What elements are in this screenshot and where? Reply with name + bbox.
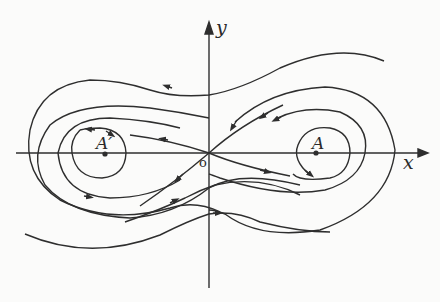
trajectory-lower-1 xyxy=(125,182,300,222)
trajectory-lower-2 xyxy=(25,213,330,248)
orbit-Aprime-outer xyxy=(38,106,300,218)
origin-label: o xyxy=(199,155,207,170)
y-axis-label: y xyxy=(216,16,227,38)
y-axis-arrowhead-icon xyxy=(205,22,213,34)
orbit-A-outer xyxy=(209,87,395,233)
phase-portrait-diagram: y x o A A′ xyxy=(0,0,440,302)
separatrix-1 xyxy=(140,105,283,206)
point-A-label: A xyxy=(312,133,324,153)
point-Aprime-label: A′ xyxy=(96,133,112,153)
orbit-Aprime-middle xyxy=(58,118,180,198)
phase-portrait-svg xyxy=(0,0,440,302)
x-axis-label: x xyxy=(403,151,414,173)
separatrix-2 xyxy=(130,135,290,176)
x-axis-arrowhead-icon xyxy=(418,149,428,157)
